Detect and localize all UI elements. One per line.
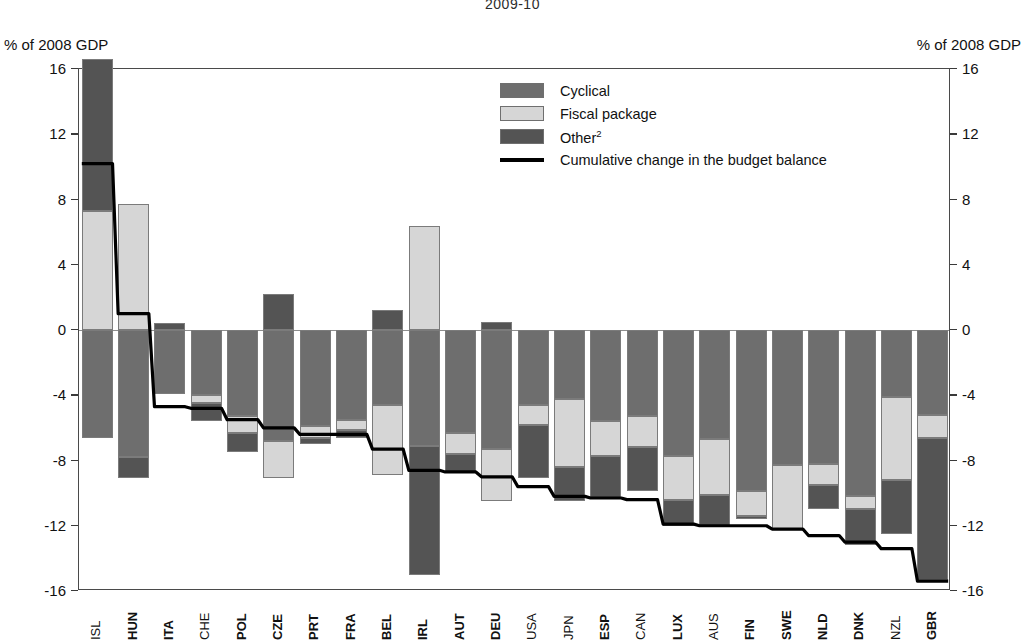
bar-segment-fiscal-package — [227, 416, 258, 432]
bar-segment-cyclical — [699, 330, 730, 439]
bar-segment-other — [845, 509, 876, 545]
y-tick-mark-right — [950, 590, 957, 591]
chart-legend: CyclicalFiscal packageOther2Cumulative c… — [500, 80, 930, 172]
bar-segment-fiscal-package — [336, 420, 367, 430]
y-tick-label-left: -12 — [6, 516, 66, 533]
x-axis-label-fra: FRA — [343, 596, 358, 640]
bar-isl — [82, 69, 113, 591]
bar-segment-fiscal-package — [808, 464, 839, 485]
bar-bel — [372, 69, 403, 591]
y-tick-label-left: 12 — [6, 125, 66, 142]
y-tick-label-right: 0 — [962, 321, 1022, 338]
x-axis-label-lux: LUX — [670, 596, 685, 640]
bar-che — [191, 69, 222, 591]
bar-segment-cyclical — [372, 330, 403, 405]
bar-segment-cyclical — [772, 330, 803, 465]
bar-segment-other — [627, 447, 658, 491]
x-axis-label-can: CAN — [633, 596, 648, 640]
legend-color-swatch — [500, 106, 544, 121]
y-tick-label-right: -12 — [962, 516, 1022, 533]
bar-segment-cyclical — [590, 330, 621, 421]
bar-segment-cyclical — [445, 330, 476, 433]
x-axis-label-dnk: DNK — [851, 596, 866, 640]
bar-segment-fiscal-package — [917, 415, 948, 438]
bar-segment-other — [154, 323, 185, 330]
bar-segment-other — [699, 495, 730, 526]
bar-segment-fiscal-package — [481, 449, 512, 501]
bar-segment-other — [481, 322, 512, 330]
y-tick-label-left: 8 — [6, 190, 66, 207]
y-tick-label-right: 12 — [962, 125, 1022, 142]
bar-segment-fiscal-package — [699, 439, 730, 494]
x-axis-label-hun: HUN — [125, 596, 140, 640]
bar-hun — [118, 69, 149, 591]
legend-item-1[interactable]: Fiscal package — [500, 103, 930, 124]
bar-segment-other — [772, 529, 803, 531]
x-axis-label-fin: FIN — [742, 596, 757, 640]
y-tick-mark-left — [71, 590, 78, 591]
bar-segment-fiscal-package — [409, 226, 440, 330]
bar-segment-fiscal-package — [118, 204, 149, 330]
y-axis-unit-left: % of 2008 GDP — [4, 36, 108, 53]
x-axis-label-esp: ESP — [597, 596, 612, 640]
x-axis-label-isl: ISL — [88, 596, 103, 640]
bar-segment-fiscal-package — [881, 397, 912, 480]
y-tick-mark-right — [950, 394, 957, 395]
y-tick-mark-right — [950, 525, 957, 526]
bar-segment-other — [590, 456, 621, 498]
x-axis-label-cze: CZE — [270, 596, 285, 640]
x-axis-label-prt: PRT — [306, 596, 321, 640]
y-tick-mark-right — [950, 329, 957, 330]
y-tick-label-right: 8 — [962, 190, 1022, 207]
y-tick-label-right: 4 — [962, 255, 1022, 272]
bar-segment-cyclical — [227, 330, 258, 416]
legend-label: Cyclical — [560, 83, 610, 99]
bar-segment-fiscal-package — [845, 496, 876, 509]
bar-segment-fiscal-package — [627, 416, 658, 447]
y-axis-unit-right: % of 2008 GDP — [917, 36, 1021, 53]
bar-segment-cyclical — [191, 330, 222, 395]
bar-segment-cyclical — [154, 330, 185, 394]
legend-footnote-marker: 2 — [596, 128, 601, 139]
bar-segment-cyclical — [845, 330, 876, 496]
bar-segment-cyclical — [663, 330, 694, 456]
legend-item-3[interactable]: Cumulative change in the budget balance — [500, 149, 930, 170]
bar-segment-other — [372, 310, 403, 330]
bar-segment-cyclical — [917, 330, 948, 415]
y-tick-mark-right — [950, 264, 957, 265]
bar-segment-fiscal-package — [191, 395, 222, 403]
y-tick-label-left: 16 — [6, 60, 66, 77]
legend-item-0[interactable]: Cyclical — [500, 80, 930, 101]
y-tick-mark-left — [71, 329, 78, 330]
y-tick-label-left: -16 — [6, 582, 66, 599]
bar-pol — [227, 69, 258, 591]
bar-segment-fiscal-package — [518, 405, 549, 425]
bar-segment-cyclical — [82, 330, 113, 438]
y-tick-mark-left — [71, 199, 78, 200]
legend-item-2[interactable]: Other2 — [500, 126, 930, 147]
y-tick-mark-left — [71, 460, 78, 461]
y-tick-label-right: -4 — [962, 386, 1022, 403]
bar-segment-cyclical — [881, 330, 912, 397]
legend-label: Fiscal package — [560, 106, 657, 122]
x-axis-label-usa: USA — [524, 596, 539, 640]
bar-segment-other — [917, 438, 948, 580]
legend-label: Other2 — [560, 128, 602, 146]
bar-segment-fiscal-package — [772, 465, 803, 529]
bar-segment-other — [518, 425, 549, 479]
bar-segment-fiscal-package — [82, 211, 113, 330]
x-axis-label-ita: ITA — [161, 596, 176, 640]
bar-segment-cyclical — [481, 330, 512, 449]
y-tick-mark-left — [71, 68, 78, 69]
legend-color-swatch — [500, 129, 544, 144]
x-axis-label-aut: AUT — [452, 596, 467, 640]
chart-title-partial: 2009-10 — [0, 0, 1025, 12]
bar-prt — [300, 69, 331, 591]
bar-segment-other — [300, 438, 331, 445]
bar-segment-cyclical — [808, 330, 839, 464]
bar-segment-fiscal-package — [663, 456, 694, 500]
x-axis-label-jpn: JPN — [561, 596, 576, 640]
bar-segment-cyclical — [300, 330, 331, 426]
bar-segment-fiscal-package — [445, 433, 476, 454]
